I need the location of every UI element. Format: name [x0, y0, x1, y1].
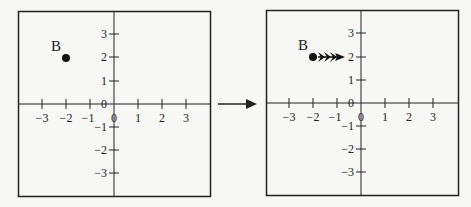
svg-text:3: 3	[183, 111, 189, 125]
svg-text:2: 2	[159, 111, 165, 125]
coordinate-grid-after: −3 −2 −1 0 1 2 3 3 2 1 0 −1 −2 −3 B	[266, 10, 459, 196]
svg-text:−2: −2	[94, 143, 107, 157]
coordinate-grid-before: −3 −2 −1 0 1 2 3 3 2 1 0 −1 −2 −3 B	[18, 11, 211, 197]
svg-text:−1: −1	[329, 110, 342, 124]
svg-text:2: 2	[406, 110, 412, 124]
x-tick-labels: −3 −2 −1 0 1 2 3	[283, 110, 436, 124]
svg-text:−3: −3	[36, 111, 49, 125]
svg-text:−2: −2	[307, 110, 320, 124]
svg-text:1: 1	[348, 73, 354, 87]
svg-text:0: 0	[358, 110, 364, 124]
svg-text:−3: −3	[283, 110, 296, 124]
svg-text:0: 0	[348, 96, 354, 110]
svg-text:3: 3	[101, 27, 107, 41]
svg-text:−2: −2	[341, 142, 354, 156]
point-b-label: B	[298, 37, 308, 53]
svg-text:1: 1	[382, 110, 388, 124]
svg-text:2: 2	[101, 50, 107, 64]
svg-text:−3: −3	[341, 165, 354, 179]
svg-text:−1: −1	[94, 120, 107, 134]
svg-text:−1: −1	[341, 119, 354, 133]
translation-diagram: −3 −2 −1 0 1 2 3 3 2 1 0 −1 −2 −3 B	[0, 0, 471, 207]
svg-text:1: 1	[101, 74, 107, 88]
point-b-label: B	[51, 38, 61, 54]
svg-text:0: 0	[111, 111, 117, 125]
svg-text:3: 3	[348, 26, 354, 40]
svg-text:1: 1	[135, 111, 141, 125]
transition-arrow	[218, 99, 257, 109]
svg-text:0: 0	[101, 97, 107, 111]
svg-text:−2: −2	[60, 111, 73, 125]
svg-text:3: 3	[430, 110, 436, 124]
svg-text:−1: −1	[82, 111, 95, 125]
point-b	[62, 54, 70, 62]
translation-arrows-icon	[318, 52, 345, 62]
svg-text:−3: −3	[94, 166, 107, 180]
x-tick-labels: −3 −2 −1 0 1 2 3	[36, 111, 189, 125]
svg-text:2: 2	[348, 50, 354, 64]
point-b	[309, 53, 317, 61]
